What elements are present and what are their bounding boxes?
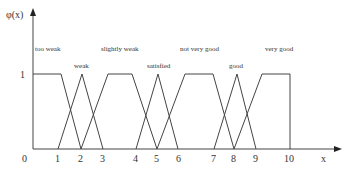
curve-satisfied [136,74,178,149]
x-tick: 10 [284,153,294,164]
membership-function-chart: φ(x) x 1 0 1 2 3 4 5 6 7 8 9 10 too weak… [0,0,358,170]
x-tick: 7 [211,153,216,164]
x-tick: 3 [100,153,105,164]
y-tick-one: 1 [20,69,25,80]
x-axis-label: x [321,153,326,164]
set-label-slightly-weak: slightly weak [101,45,139,53]
curve-weak [58,74,103,149]
x-tick: 4 [133,153,138,164]
x-tick: 5 [154,153,159,164]
x-tick: 1 [55,153,60,164]
curve-good [214,74,256,149]
curve-very-good [234,74,290,149]
set-label-weak: weak [74,62,89,70]
y-axis-label: φ(x) [6,9,23,21]
set-label-good: good [229,62,244,70]
set-label-satisfied: satisfied [147,62,171,70]
x-tick: 0 [22,153,27,164]
x-tick: 9 [253,153,258,164]
membership-curves [33,74,290,149]
curve-not-very-good [157,74,234,149]
set-label-very-good: very good [265,45,294,53]
x-tick: 8 [231,153,236,164]
x-axis-arrow-icon [334,146,342,152]
x-tick: 2 [78,153,83,164]
curve-too-weak [33,74,81,149]
x-tick: 6 [176,153,181,164]
x-ticks: 0 1 2 3 4 5 6 7 8 9 10 [22,153,294,164]
y-axis-arrow-icon [30,8,36,16]
set-label-too-weak: too weak [35,45,61,53]
set-label-not-very-good: not very good [180,45,219,53]
